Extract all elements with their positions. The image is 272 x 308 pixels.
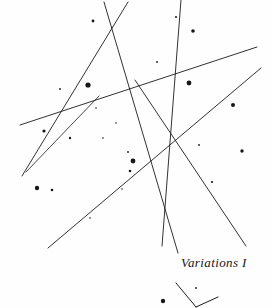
ink-dot: [175, 16, 177, 18]
ink-dot: [92, 20, 95, 23]
ink-dot: [121, 188, 123, 190]
ink-dot: [129, 170, 132, 173]
ink-dot: [191, 29, 195, 33]
ink-dot: [35, 186, 39, 190]
artwork-canvas: Variations I: [0, 0, 272, 308]
artwork-caption: Variations I: [181, 255, 247, 271]
ink-dot: [102, 137, 104, 139]
ink-dot: [127, 151, 129, 153]
ink-dot: [89, 217, 91, 219]
ink-dot: [187, 81, 192, 86]
ink-dot: [161, 299, 165, 303]
ink-dot: [231, 103, 235, 107]
ink-dot: [156, 61, 158, 63]
ink-dot: [59, 88, 61, 90]
ink-dot: [198, 144, 200, 146]
ink-dot: [195, 287, 197, 289]
ink-dot: [42, 129, 45, 132]
ink-dot: [211, 181, 213, 183]
ink-dot: [69, 137, 71, 139]
ink-dot: [240, 149, 243, 152]
ink-dot: [95, 107, 97, 109]
ink-dot: [115, 122, 117, 124]
ink-dot: [51, 189, 54, 192]
ink-dot: [131, 159, 136, 164]
ink-dot: [85, 82, 90, 87]
